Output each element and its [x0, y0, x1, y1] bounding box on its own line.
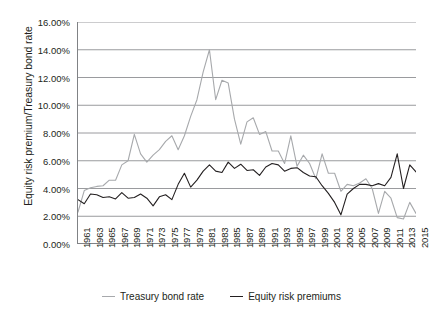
y-axis-tick-label: 8.00% — [18, 128, 70, 139]
legend-line-swatch-icon — [102, 296, 115, 297]
series-line — [78, 50, 416, 219]
legend-item: Treasury bond rate — [102, 291, 204, 302]
x-axis-tick-label: 1961 — [81, 228, 92, 248]
x-axis-tick-label: 1977 — [181, 228, 192, 248]
y-axis-tick-label: 0.00% — [18, 239, 70, 250]
y-axis-tick-label: 2.00% — [18, 211, 70, 222]
x-axis-tick-label: 2013 — [406, 228, 417, 248]
x-axis-tick-label: 2011 — [394, 228, 405, 248]
x-axis-tick-label: 1969 — [131, 228, 142, 248]
x-axis-tick-label: 1993 — [281, 228, 292, 248]
y-axis-tick-labels: 0.00%2.00%4.00%6.00%8.00%10.00%12.00%14.… — [18, 16, 70, 244]
legend-label: Equity risk premiums — [248, 291, 341, 302]
legend-label: Treasury bond rate — [120, 291, 204, 302]
legend-line-swatch-icon — [230, 296, 243, 297]
x-axis-tick-label: 1985 — [231, 228, 242, 248]
chart-svg — [78, 22, 416, 244]
y-axis-tick-label: 6.00% — [18, 155, 70, 166]
y-axis-tick-label: 10.00% — [18, 100, 70, 111]
y-axis-tick-label: 4.00% — [18, 183, 70, 194]
x-axis-tick-label: 1989 — [256, 228, 267, 248]
y-axis-tick-label: 16.00% — [18, 17, 70, 28]
x-axis-tick-label: 1983 — [219, 228, 230, 248]
x-axis-tick-label: 2005 — [356, 228, 367, 248]
legend-item: Equity risk premiums — [230, 291, 341, 302]
x-axis-tick-label: 1975 — [169, 228, 180, 248]
x-axis-tick-label: 1971 — [144, 228, 155, 248]
x-axis-tick-label: 1995 — [294, 228, 305, 248]
x-axis-tick-label: 1973 — [156, 228, 167, 248]
x-axis-tick-label: 2007 — [369, 228, 380, 248]
plot-area — [77, 22, 415, 244]
chart-legend: Treasury bond rateEquity risk premiums — [0, 291, 443, 302]
y-axis-tick-label: 12.00% — [18, 72, 70, 83]
gridlines — [78, 22, 416, 216]
series-line — [78, 154, 416, 215]
x-axis-tick-label: 1991 — [269, 228, 280, 248]
y-axis-tick-label: 14.00% — [18, 44, 70, 55]
x-axis-tick-label: 1981 — [206, 228, 217, 248]
x-axis-tick-label: 1997 — [306, 228, 317, 248]
x-axis-tick-label: 1979 — [194, 228, 205, 248]
chart-page: Equity risk premium/Treasury bond rate 0… — [0, 0, 443, 314]
x-axis-tick-label: 2009 — [381, 228, 392, 248]
x-axis-tick-labels: 1961196319651967196919711973197519771979… — [77, 246, 415, 290]
x-axis-tick-label: 1987 — [244, 228, 255, 248]
x-axis-tick-label: 2015 — [419, 228, 430, 248]
x-axis-tick-label: 2001 — [331, 228, 342, 248]
x-axis-tick-label: 1965 — [106, 228, 117, 248]
x-axis-tick-label: 1967 — [119, 228, 130, 248]
x-axis-tick-label: 1999 — [319, 228, 330, 248]
series-lines — [78, 50, 416, 219]
x-axis-tick-label: 1963 — [94, 228, 105, 248]
x-axis-tick-label: 2003 — [344, 228, 355, 248]
